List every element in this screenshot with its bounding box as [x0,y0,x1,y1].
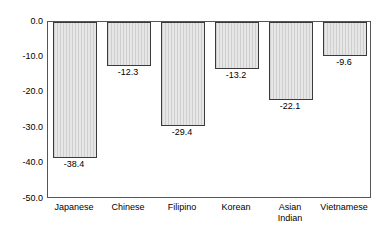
x-axis-tick-label: Korean [209,202,263,213]
y-axis-tick-label: -40.0 [0,158,43,167]
bar [161,22,204,126]
x-axis: JapaneseChineseFilipinoKoreanAsian India… [47,202,371,241]
y-axis-tick-label: -10.0 [0,52,43,61]
bar-value-label: -9.6 [322,57,365,67]
bar-value-label: -22.1 [268,101,311,111]
bar [215,22,258,69]
bars-layer [48,22,370,197]
bar-value-label: -12.3 [106,67,149,77]
x-axis-tick-label: Japanese [47,202,101,213]
bar-value-label: -29.4 [160,127,203,137]
y-axis: 0.0-10.0-20.0-30.0-40.0-50.0 [0,0,43,241]
x-axis-tick-label: Vietnamese [317,202,371,213]
y-axis-tick-label: -20.0 [0,87,43,96]
plot-area [47,21,371,198]
x-axis-tick-label: Filipino [155,202,209,213]
bar [323,22,366,56]
bar [269,22,312,100]
bar [107,22,150,66]
bar-chart: 0.0-10.0-20.0-30.0-40.0-50.0 JapaneseChi… [0,0,391,241]
y-axis-tick-label: -50.0 [0,194,43,203]
bar [53,22,96,158]
y-axis-tick-label: 0.0 [0,17,43,26]
x-axis-tick-label: Chinese [101,202,155,213]
bar-value-label: -38.4 [52,159,95,169]
y-axis-tick-label: -30.0 [0,123,43,132]
x-axis-tick-label: Asian Indian [263,202,317,224]
bar-value-label: -13.2 [214,70,257,80]
